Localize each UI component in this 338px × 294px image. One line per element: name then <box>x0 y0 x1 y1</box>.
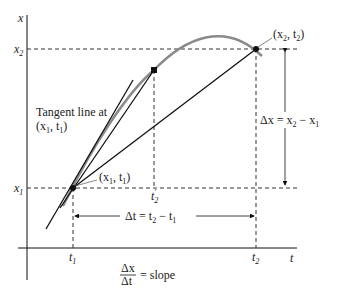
position-curve <box>63 36 262 206</box>
motion-diagram: x t x2 x1 t1 t2 t2′ (x1, t1) (x2, t2) Ta… <box>0 0 338 294</box>
x-axis-label: t <box>290 251 294 265</box>
x1-tick-label: x1 <box>13 181 23 197</box>
tangent-annotation-line1: Tangent line at <box>36 105 108 119</box>
t1-tick-label: t1 <box>69 250 76 266</box>
point-x1-t1-label: (x1, t1) <box>99 170 130 186</box>
point-t2-prime <box>151 67 157 73</box>
leader-p2 <box>258 38 272 47</box>
slope-numerator: Δx <box>121 261 135 275</box>
delta-t-label: Δt = t2 − t1 <box>125 209 176 225</box>
x2-tick-label: x2 <box>13 42 23 58</box>
t2-prime-tick-label: t2′ <box>151 188 158 205</box>
tangent-annotation-line2: (x1, t1) <box>36 119 67 135</box>
t2-tick-label: t2 <box>252 250 259 266</box>
slope-equals-label: = slope <box>140 268 175 282</box>
delta-x-label: Δx = x2 − x1 <box>260 113 319 129</box>
y-axis-label: x <box>17 11 24 25</box>
tangent-line <box>46 80 133 229</box>
slope-denominator: Δt <box>121 274 133 288</box>
point-x2-t2-label: (x2, t2) <box>273 27 304 43</box>
